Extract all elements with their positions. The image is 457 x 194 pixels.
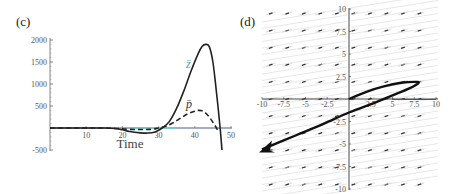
y-tick-label: 10 [338, 5, 346, 14]
y-tick-label: 2.5 [336, 73, 346, 82]
direction-field [262, 0, 438, 194]
y-tick-label: -10 [335, 185, 346, 194]
direction-field-chart: -10-7.5-5-2.52.557.510 107.552.5-2.5-5-7… [257, 0, 440, 194]
y-tick-label: 1000 [31, 80, 47, 89]
y-tick-label: 5 [342, 50, 346, 59]
series-line-p [50, 110, 218, 132]
y-tick-label: 2000 [31, 36, 47, 45]
x-tick-label: -5 [302, 100, 309, 109]
x-axis-label: Time [117, 136, 144, 151]
y-tick-label: -5 [339, 140, 346, 149]
series-label-z: z̄ [185, 57, 191, 71]
x-tick-label: -10 [257, 100, 268, 109]
x-tick-label: -2.5 [321, 100, 334, 109]
y-tick-label: -7.5 [333, 163, 346, 172]
arrowhead-icon [259, 140, 275, 152]
x-tick-label: 50 [227, 131, 235, 140]
y-tick-label: -500 [32, 146, 47, 155]
x-tick-label: 7.5 [409, 100, 419, 109]
y-tick-label: 500 [35, 102, 47, 111]
x-tick-label: 5 [391, 100, 395, 109]
x-tick-label: 40 [191, 131, 199, 140]
x-tick-label: -7.5 [277, 100, 290, 109]
y-tick-label: 7.5 [336, 28, 346, 37]
figure-canvas: 200015001000500-500 1020304050 Time z̄ p… [0, 0, 457, 194]
x-tick-label: 10 [432, 100, 440, 109]
y-tick-label: 1500 [31, 58, 47, 67]
series-label-p: p̄ [185, 97, 192, 111]
x-tick-label: 10 [82, 131, 90, 140]
time-series-chart: 200015001000500-500 1020304050 Time z̄ p… [31, 36, 235, 155]
